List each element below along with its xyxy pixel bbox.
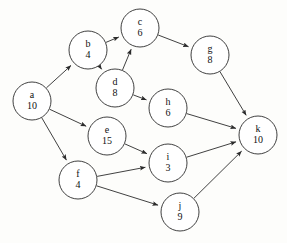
graph-edge-b-to-d — [99, 66, 101, 69]
graph-edge-a-to-e — [50, 109, 86, 126]
node-value-d: 8 — [113, 87, 118, 98]
node-label-b: b — [86, 38, 91, 49]
graph-node-j[interactable]: j9 — [161, 193, 199, 231]
node-label-g: g — [208, 43, 213, 54]
graph-edge-f-to-i — [97, 167, 145, 176]
node-label-c: c — [138, 16, 143, 27]
graph-edge-g-to-k — [220, 72, 246, 116]
node-value-b: 4 — [86, 49, 91, 60]
graph-edge-d-to-c — [123, 49, 132, 70]
node-label-a: a — [30, 89, 35, 100]
graph-edge-a-to-f — [42, 118, 67, 160]
graph-node-e[interactable]: e15 — [88, 117, 126, 155]
graph-node-k[interactable]: k10 — [239, 116, 277, 154]
graph-edge-i-to-k — [187, 142, 236, 157]
node-label-k: k — [256, 123, 261, 134]
graph-edge-f-to-j — [97, 186, 158, 205]
graph-edge-a-to-b — [46, 65, 71, 87]
node-label-e: e — [105, 124, 110, 135]
graph-node-a[interactable]: a10 — [13, 82, 51, 120]
node-label-h: h — [166, 96, 171, 107]
node-label-d: d — [113, 76, 118, 87]
node-value-j: 9 — [178, 211, 183, 222]
graph-node-b[interactable]: b4 — [69, 31, 107, 69]
node-value-h: 6 — [166, 107, 171, 118]
graph-node-f[interactable]: f4 — [59, 161, 97, 199]
node-value-i: 3 — [166, 162, 171, 173]
node-value-e: 15 — [102, 135, 112, 146]
graph-node-h[interactable]: h6 — [149, 89, 187, 127]
graph-canvas: a10b4c6d8e15f4g8h6i3j9k10 — [0, 0, 287, 243]
graph-edge-j-to-k — [194, 151, 242, 198]
node-label-i: i — [167, 151, 170, 162]
node-value-f: 4 — [76, 179, 81, 190]
graph-node-g[interactable]: g8 — [191, 36, 229, 74]
graph-node-c[interactable]: c6 — [121, 9, 159, 47]
node-layer: a10b4c6d8e15f4g8h6i3j9k10 — [13, 9, 277, 231]
graph-edge-b-to-c — [106, 37, 119, 42]
node-value-c: 6 — [138, 27, 143, 38]
node-label-j: j — [178, 200, 182, 211]
directed-graph-svg: a10b4c6d8e15f4g8h6i3j9k10 — [0, 0, 287, 243]
graph-node-i[interactable]: i3 — [149, 144, 187, 182]
node-value-k: 10 — [253, 134, 263, 145]
graph-node-d[interactable]: d8 — [96, 69, 134, 107]
graph-edge-c-to-g — [158, 35, 188, 47]
graph-edge-e-to-i — [125, 144, 147, 154]
graph-edge-h-to-k — [187, 114, 236, 129]
node-value-a: 10 — [27, 100, 37, 111]
node-value-g: 8 — [208, 54, 213, 65]
graph-edge-d-to-h — [133, 95, 146, 100]
